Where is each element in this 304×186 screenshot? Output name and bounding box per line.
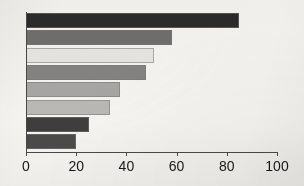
plot-area [26, 12, 277, 152]
x-tick-40 [126, 152, 127, 156]
x-tick-label-80: 80 [219, 158, 235, 174]
bar-2 [26, 30, 172, 45]
x-tick-label-0: 0 [22, 158, 30, 174]
bar-3 [26, 48, 154, 63]
bar-chart: 020406080100 [0, 0, 304, 186]
x-tick-label-100: 100 [265, 158, 288, 174]
x-tick-label-40: 40 [119, 158, 135, 174]
x-tick-20 [76, 152, 77, 156]
x-axis-line [26, 152, 278, 153]
x-tick-100 [277, 152, 278, 156]
x-tick-60 [177, 152, 178, 156]
bar-1 [26, 13, 239, 28]
y-axis-line [26, 12, 27, 153]
x-tick-0 [26, 152, 27, 156]
bar-4 [26, 65, 146, 80]
bar-6 [26, 100, 110, 115]
x-tick-label-60: 60 [169, 158, 185, 174]
x-tick-80 [227, 152, 228, 156]
bar-8 [26, 134, 76, 149]
x-tick-label-20: 20 [68, 158, 84, 174]
bar-7 [26, 117, 89, 132]
bar-5 [26, 82, 120, 97]
